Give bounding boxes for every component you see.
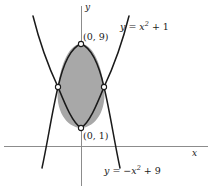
figure-canvas: [0, 0, 212, 192]
point-marker-left-intersection: [55, 84, 60, 89]
y-axis-label: y: [85, 3, 90, 12]
curve-label-upward-parabola: y = x2 + 1: [120, 22, 169, 32]
curve-label-downward-prefix: y = −x: [104, 165, 137, 176]
point-marker-right-intersection: [101, 84, 106, 89]
math-figure: y x (0, 9) (0, 1) y = x2 + 1 y = −x2 + 9: [0, 0, 212, 192]
curve-label-downward-suffix: + 9: [141, 165, 161, 176]
curve-label-upward-suffix: + 1: [149, 21, 169, 32]
shaded-region: [58, 44, 105, 128]
curve-label-upward-prefix: y = x: [120, 21, 145, 32]
x-axis-label: x: [192, 149, 197, 158]
curve-label-downward-parabola: y = −x2 + 9: [104, 166, 161, 176]
point-label-bottom-vertex: (0, 1): [83, 131, 109, 141]
point-marker-top-vertex: [78, 41, 83, 46]
point-label-top-vertex: (0, 9): [83, 32, 109, 42]
